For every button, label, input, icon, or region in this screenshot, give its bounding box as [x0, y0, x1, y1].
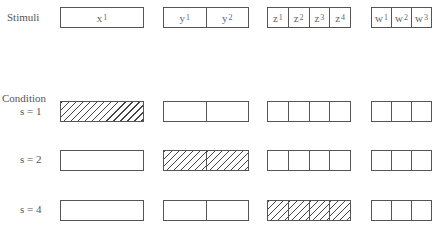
w-cell	[372, 102, 391, 121]
z-cell	[288, 151, 309, 170]
condition-s4-x-box	[60, 200, 144, 221]
stimulus-x-box: x1	[60, 7, 144, 28]
x-cell	[61, 201, 143, 220]
stimulus-y1-cell: y1	[164, 8, 206, 27]
w-cell	[411, 151, 431, 170]
condition-s4-label: s = 4	[20, 203, 41, 215]
condition-s1-w-box	[371, 101, 432, 122]
z-cell	[329, 151, 350, 170]
stimulus-w2-cell: w2	[391, 8, 411, 27]
w-cell	[391, 201, 411, 220]
w-cell	[391, 151, 411, 170]
z-cell	[309, 201, 330, 220]
condition-s1-y-box	[163, 101, 249, 122]
w-cell	[391, 102, 411, 121]
y-cell	[164, 151, 206, 170]
z-cell	[268, 151, 288, 170]
condition-s4-w-box	[371, 200, 432, 221]
z-cell	[309, 102, 330, 121]
y-cell	[164, 102, 206, 121]
z-cell	[268, 201, 288, 220]
condition-s1-z-box	[267, 101, 351, 122]
condition-s1-x-box-hatched	[60, 101, 144, 122]
w-cell	[411, 201, 431, 220]
stimulus-z1-cell: z1	[268, 8, 288, 27]
x-cell	[61, 151, 143, 170]
z-cell	[309, 151, 330, 170]
condition-s1-label: s = 1	[20, 105, 41, 117]
y-cell	[206, 201, 249, 220]
condition-s2-z-box	[267, 150, 351, 171]
stimulus-y-box: y1 y2	[163, 7, 249, 28]
condition-s2-label: s = 2	[20, 153, 41, 165]
w-cell	[372, 151, 391, 170]
stimulus-y2-cell: y2	[206, 8, 249, 27]
w-cell	[372, 201, 391, 220]
z-cell	[268, 102, 288, 121]
condition-s2-y-box-hatched	[163, 150, 249, 171]
z-cell	[329, 102, 350, 121]
y-cell	[206, 102, 249, 121]
y-cell	[206, 151, 249, 170]
stimulus-z4-cell: z4	[329, 8, 350, 27]
z-cell	[288, 201, 309, 220]
condition-s2-w-box	[371, 150, 432, 171]
y-cell	[164, 201, 206, 220]
stimulus-z2-cell: z2	[288, 8, 309, 27]
stimulus-z-box: z1 z2 z3 z4	[267, 7, 351, 28]
stimulus-w1-cell: w1	[372, 8, 391, 27]
stimulus-x1-cell: x1	[61, 8, 143, 27]
stimulus-w3-cell: w3	[411, 8, 431, 27]
stimulus-z3-cell: z3	[309, 8, 330, 27]
stimulus-w-box: w1 w2 w3	[371, 7, 432, 28]
z-cell	[329, 201, 350, 220]
stimuli-label: Stimuli	[7, 11, 39, 23]
condition-s4-y-box	[163, 200, 249, 221]
w-cell	[411, 102, 431, 121]
condition-label: Condition	[2, 92, 46, 104]
condition-s4-z-box-hatched	[267, 200, 351, 221]
x-cell	[61, 102, 143, 121]
z-cell	[288, 102, 309, 121]
condition-s2-x-box	[60, 150, 144, 171]
